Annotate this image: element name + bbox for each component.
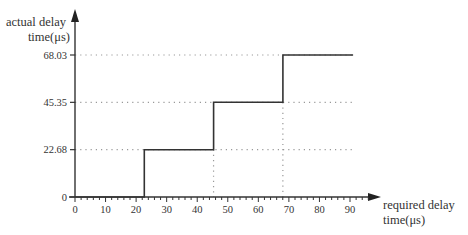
y-tick-label: 0 bbox=[62, 192, 67, 203]
y-tick-label: 22.68 bbox=[43, 144, 67, 155]
y-tick-label: 68.03 bbox=[43, 50, 67, 61]
x-tick-label: 20 bbox=[131, 204, 142, 215]
x-axis-arrow-icon bbox=[368, 193, 381, 201]
x-tick-label: 60 bbox=[253, 204, 264, 215]
step-chart: 0102030405060708090022.6845.3568.03 actu… bbox=[0, 0, 468, 235]
x-tick-label: 50 bbox=[223, 204, 234, 215]
x-tick-label: 70 bbox=[284, 204, 295, 215]
x-tick-label: 90 bbox=[345, 204, 356, 215]
y-axis-label-line2: time(μs) bbox=[28, 30, 70, 44]
x-axis-label-line1: required delay bbox=[383, 198, 456, 212]
y-axis-arrow-icon bbox=[71, 9, 79, 22]
x-tick-label: 0 bbox=[72, 204, 77, 215]
ticks: 0102030405060708090022.6845.3568.03 bbox=[43, 50, 368, 216]
x-tick-label: 80 bbox=[314, 204, 325, 215]
axes bbox=[69, 9, 381, 201]
x-axis-label-line2: time(μs) bbox=[383, 213, 425, 227]
y-tick-label: 45.35 bbox=[43, 97, 67, 108]
y-axis-label-line1: actual delay bbox=[6, 15, 67, 29]
x-tick-label: 40 bbox=[192, 204, 203, 215]
x-tick-label: 10 bbox=[100, 204, 111, 215]
x-tick-label: 30 bbox=[161, 204, 172, 215]
